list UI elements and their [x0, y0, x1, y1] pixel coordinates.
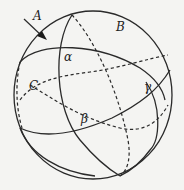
great-circle-lower-front	[20, 128, 95, 176]
great-circle-1-back	[72, 15, 129, 176]
label-gamma: γ	[144, 81, 151, 93]
label-b: B	[116, 21, 125, 33]
label-beta: β	[81, 113, 88, 125]
sphere-figure	[0, 0, 184, 190]
label-c: C	[29, 80, 38, 92]
label-a: A	[33, 10, 42, 22]
label-alpha: α	[64, 51, 72, 63]
